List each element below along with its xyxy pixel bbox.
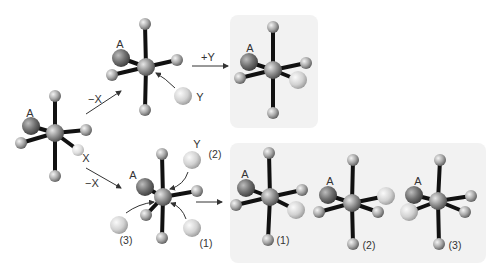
ligand-A-atom-icon [405, 186, 423, 204]
label-path-2-product: (2) [363, 240, 376, 251]
ligand-atom-icon [433, 238, 445, 250]
label-A-intermediate-top: A [116, 39, 123, 50]
ligand-atom-icon [139, 18, 151, 30]
ligand-atom-icon [156, 148, 168, 160]
ligand-atom-icon [313, 206, 325, 218]
ligand-atom-icon [296, 184, 308, 196]
ligand-atom-icon [139, 104, 151, 116]
product-1 [230, 147, 308, 246]
ligand-A-atom-icon [237, 179, 255, 197]
incoming-Y-atom-icon [289, 71, 307, 89]
label-path-3: (3) [120, 235, 133, 246]
label-path-3-product: (3) [449, 240, 462, 251]
label-A-reactant: A [26, 108, 33, 119]
attack-arrow-path-1-icon [171, 203, 186, 219]
ligand-atom-icon [49, 170, 61, 182]
label-A-product-top: A [246, 43, 253, 54]
ligand-A-atom-icon [319, 186, 337, 204]
ligand-atom-icon [171, 54, 183, 66]
ligand-atom-icon [234, 72, 246, 84]
incoming-Y-path-1-atom-icon [183, 219, 201, 237]
ligand-atom-icon [156, 232, 168, 244]
intermediate-top-five-coordinate [106, 18, 183, 116]
ligand-atom-icon [15, 137, 27, 149]
label-Y-top: Y [196, 92, 203, 103]
label-A-intermediate-bottom: A [129, 170, 136, 181]
label-Y-path-2: Y [193, 139, 200, 150]
label-path-1: (1) [200, 238, 213, 249]
metal-center-atom-icon [154, 188, 172, 206]
label-minus-X-bottom: −X [85, 178, 99, 189]
label-A-product-3: A [414, 176, 421, 187]
incoming-Y-top-atom-icon [174, 87, 192, 105]
ligand-atom-icon [262, 234, 274, 246]
ligand-A-atom-icon [22, 117, 40, 135]
ligand-atom-icon [300, 57, 312, 69]
reaction-diagram [0, 0, 499, 267]
ligand-atom-icon [80, 124, 92, 136]
ligand-atom-icon [434, 154, 446, 166]
label-A-product-1: A [241, 169, 248, 180]
ligand-atom-icon [347, 154, 359, 166]
product-3 [400, 154, 477, 250]
incoming-Y-path-2-atom-icon [183, 151, 201, 169]
label-path-2: (2) [209, 149, 222, 160]
ligand-atom-icon [263, 147, 275, 159]
ligand-A-atom-icon [136, 178, 154, 196]
ligand-atom-icon [465, 190, 477, 202]
incoming-Y-atom-icon [377, 187, 395, 205]
attack-arrow-top-icon [156, 73, 175, 88]
ligand-atom-icon [49, 90, 61, 102]
label-minus-X-top: −X [88, 94, 102, 105]
reactant-octahedral-complex [15, 90, 92, 182]
label-path-1-product: (1) [277, 235, 290, 246]
incoming-Y-path-3-atom-icon [110, 216, 128, 234]
metal-center-atom-icon [137, 58, 155, 76]
metal-center-atom-icon [46, 124, 64, 142]
ligand-atom-icon [106, 69, 118, 81]
ligand-atom-icon [267, 21, 279, 33]
metal-center-atom-icon [264, 61, 282, 79]
ligand-A-atom-icon [240, 53, 258, 71]
label-A-product-2: A [326, 176, 333, 187]
metal-center-atom-icon [261, 188, 279, 206]
label-X-reactant: X [82, 153, 89, 164]
product-top [234, 21, 312, 119]
label-plus-Y: +Y [201, 52, 215, 63]
incoming-Y-atom-icon [400, 203, 418, 221]
free-ligands-layer [110, 87, 201, 237]
ligand-atom-icon [267, 107, 279, 119]
metal-center-atom-icon [343, 194, 361, 212]
ligand-atom-icon [372, 206, 384, 218]
ligand-atom-icon [347, 238, 359, 250]
ligand-atom-icon [459, 206, 471, 218]
metal-center-atom-icon [429, 192, 447, 210]
attack-arrow-path-2-icon [170, 172, 188, 189]
ligand-atom-icon [230, 199, 242, 211]
ligand-atom-icon [140, 209, 152, 221]
ligand-A-atom-icon [112, 49, 130, 67]
ligand-atom-icon [191, 185, 203, 197]
product-2 [313, 154, 395, 250]
incoming-Y-atom-icon [287, 201, 305, 219]
